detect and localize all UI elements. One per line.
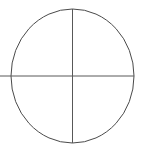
- circle-crosshair-diagram: Circle with crosshair A thin dark outlin…: [0, 0, 146, 150]
- figure-canvas: Circle with crosshair A thin dark outlin…: [0, 0, 146, 150]
